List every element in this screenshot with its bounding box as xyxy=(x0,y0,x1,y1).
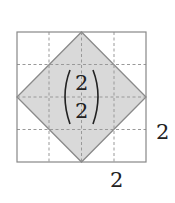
side-label-right: 2 xyxy=(156,122,169,143)
vector-top-component: 2 xyxy=(75,73,88,94)
side-label-bottom: 2 xyxy=(110,170,123,191)
vector-bottom-component: 2 xyxy=(75,101,88,122)
